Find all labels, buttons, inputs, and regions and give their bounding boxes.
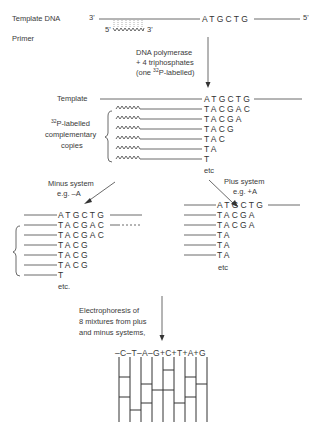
plus-sequence: TACGA xyxy=(217,211,257,220)
electrophoresis-line1: Electrophoresis of xyxy=(79,307,139,315)
minus-system-title: Minus system xyxy=(48,180,94,188)
plus-sequence: TA xyxy=(217,241,232,250)
primer-zigzag xyxy=(113,28,144,31)
electrophoresis-line2: 8 mixtures from plus xyxy=(79,318,147,326)
template-5prime-label: 5' xyxy=(303,14,309,22)
plus-system-example: e.g. +A xyxy=(233,188,257,196)
electrophoresis-line3: and minus systems, xyxy=(79,329,145,337)
copies-label-line1: 32P-labelled xyxy=(51,120,90,128)
copy-sequence: TACGAC xyxy=(204,105,252,114)
template-3prime-label: 3' xyxy=(89,14,95,22)
minus-sequence: T xyxy=(58,271,65,280)
copies-etc: etc xyxy=(204,167,214,175)
copy-sequence: TAC xyxy=(204,135,227,144)
minus-template-sequence: ATGCTG xyxy=(58,211,106,220)
copies-template-sequence: ATGCTG xyxy=(204,95,252,104)
minus-sequence: TACG xyxy=(58,261,90,270)
copies-strands xyxy=(116,106,202,159)
minus-sequence: TACGAC xyxy=(58,231,106,240)
minus-bracket xyxy=(13,226,20,276)
arrowhead-electrophoresis xyxy=(160,335,165,341)
plus-etc: etc xyxy=(218,264,228,272)
primer-hydrogen-bonds xyxy=(114,20,142,27)
minus-sequence: TACG xyxy=(58,251,90,260)
copies-bracket xyxy=(105,111,112,162)
plus-system-title: Plus system xyxy=(224,178,264,186)
copies-template-label: Template xyxy=(57,95,87,103)
minus-system-example: e.g. –A xyxy=(57,190,81,198)
dna-polymerase-label: DNA polymerase xyxy=(136,49,192,57)
plus-sequence: TACGA xyxy=(217,221,257,230)
plus-sequence: TA xyxy=(217,251,232,260)
plus-sequence: TA xyxy=(217,231,232,240)
primer-3prime-label: 3' xyxy=(147,26,153,34)
copies-label-line2: complementary xyxy=(45,131,96,139)
arrowhead-step1 xyxy=(206,82,211,88)
primer-5prime-label: 5' xyxy=(105,26,111,34)
copy-sequence: TA xyxy=(204,145,219,154)
template-sequence: ATGCTG xyxy=(202,15,250,24)
template-dna-label: Template DNA xyxy=(12,15,60,23)
copy-sequence: TACGA xyxy=(204,115,244,124)
minus-sequence: TACG xyxy=(58,241,90,250)
copy-sequence: T xyxy=(204,155,211,164)
plus-template-sequence: ATGCTG xyxy=(217,201,265,210)
copy-sequence: TACG xyxy=(204,125,236,134)
copies-label-line3: copies xyxy=(61,142,83,150)
labelled-note: (one 32P-labelled) xyxy=(136,69,195,77)
minus-sequence: TACGAC xyxy=(58,221,106,230)
gel-lane-headers: –C–T–A–G+C+T+A+G xyxy=(115,349,206,358)
primer-label: Primer xyxy=(12,35,34,43)
triphosphates-label: + 4 triphosphates xyxy=(136,59,194,67)
minus-etc: etc. xyxy=(58,283,70,291)
